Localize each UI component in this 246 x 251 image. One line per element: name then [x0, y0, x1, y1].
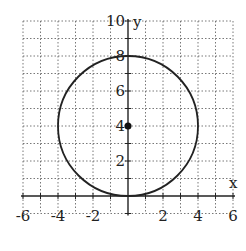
- x-tick-label: 2: [158, 207, 168, 225]
- x-tick-label: 4: [193, 207, 203, 225]
- x-tick-label: -2: [86, 207, 101, 225]
- y-tick-label: 10: [106, 12, 125, 30]
- x-tick-label: 6: [228, 207, 238, 225]
- y-tick-label: 6: [115, 82, 125, 100]
- x-tick-label: -4: [51, 207, 66, 225]
- y-tick-label: 2: [115, 152, 125, 170]
- x-axis-label: x: [229, 174, 238, 192]
- x-tick-label: -6: [16, 207, 31, 225]
- tick-labels: -6-4-2246246810: [16, 12, 238, 225]
- y-axis-label: y: [132, 13, 142, 31]
- center-point: [125, 123, 132, 130]
- y-tick-label: 4: [115, 117, 125, 135]
- circle-graph: -6-4-2246246810 x y: [0, 0, 246, 251]
- y-tick-label: 8: [115, 47, 125, 65]
- axes: [21, 19, 235, 216]
